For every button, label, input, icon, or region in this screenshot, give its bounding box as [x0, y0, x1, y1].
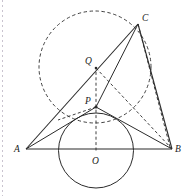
- label-B: B: [175, 144, 181, 154]
- geometry-figure: A B C O P Q: [0, 0, 186, 196]
- segment-A-C: [26, 24, 138, 149]
- segment-A-P: [26, 107, 96, 149]
- label-Q: Q: [85, 56, 92, 66]
- label-P: P: [84, 96, 91, 106]
- point-marker-Q: [95, 67, 98, 70]
- geometry-canvas: A B C O P Q: [0, 0, 186, 196]
- segment-P-C: [96, 24, 138, 107]
- point-marker-P: [94, 105, 97, 108]
- label-A: A: [13, 144, 20, 154]
- label-O: O: [92, 156, 99, 166]
- label-C: C: [142, 13, 149, 23]
- segment-B-C: [138, 24, 172, 149]
- segment-P-B: [96, 107, 172, 149]
